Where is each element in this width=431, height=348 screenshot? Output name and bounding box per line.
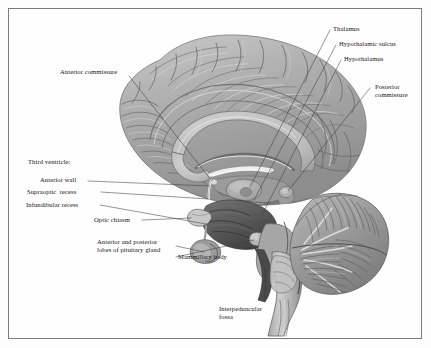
figure-root: Anterior commissure Third ventricle: Ant…: [0, 0, 431, 348]
label-pituitary-line2: lobes of pituitary gland: [97, 246, 160, 254]
label-infundibular-recess: Infundibular recess: [26, 201, 78, 209]
label-posterior-commissure-line2: commissure: [375, 91, 408, 99]
label-supraoptic-recess: Supraoptic recess: [27, 188, 76, 196]
label-interpeduncular-fossa: Interpeduncular fossa: [219, 305, 262, 321]
label-posterior-commissure: Posterior commissure: [375, 83, 408, 99]
label-hypothalamic-sulcus: Hypothalamic sulcus: [339, 40, 396, 48]
label-posterior-commissure-line1: Posterior: [375, 83, 408, 91]
label-anterior-wall: Anterior wall: [40, 176, 76, 184]
label-interpeduncular-line1: Interpeduncular: [219, 305, 262, 313]
label-pituitary-line1: Anterior and posterior: [97, 238, 160, 246]
label-pituitary-gland: Anterior and posterior lobes of pituitar…: [97, 238, 160, 254]
label-interpeduncular-line2: fossa: [219, 313, 262, 321]
label-third-ventricle-heading: Third ventricle:: [28, 158, 70, 166]
label-mammillary-body: Mammillary body: [178, 253, 227, 261]
label-anterior-commissure: Anterior commissure: [60, 68, 117, 76]
label-hypothalamus: Hypothalamus: [344, 55, 383, 63]
label-optic-chiasm: Optic chiasm: [94, 216, 130, 224]
label-thalamus: Thalamus: [333, 25, 360, 33]
